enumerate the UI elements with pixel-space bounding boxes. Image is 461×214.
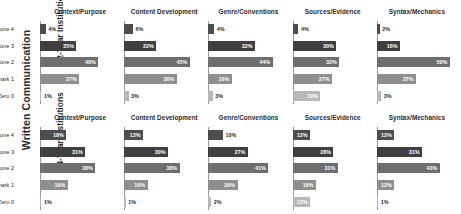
bar-0[interactable]: 6% (124, 24, 133, 34)
bar-3[interactable]: 16% (293, 180, 316, 190)
bar-value-label: 12% (381, 182, 394, 188)
bar-row: 19% (40, 177, 120, 194)
bars-container: 2%16%50%27%3% (377, 21, 457, 104)
bar-value-label: 22% (143, 43, 156, 49)
bar-row: 25% (40, 38, 120, 55)
bar-value-label: 43% (426, 165, 439, 171)
bar-value-label: 27% (403, 76, 416, 82)
bar-value-label: 3% (381, 93, 391, 99)
bar-2[interactable]: 38% (40, 163, 95, 173)
bar-0[interactable]: 4% (40, 24, 46, 34)
bars-container: 4%25%40%27%1% (40, 21, 120, 104)
bar-1[interactable]: 30% (124, 147, 168, 157)
bar-row: 50% (377, 54, 457, 71)
bar-value-label: 32% (242, 43, 255, 49)
bar-value-label: 31% (409, 149, 422, 155)
panel-title-2yr-1: Content Development (124, 8, 204, 15)
bar-3[interactable]: 19% (40, 180, 68, 190)
bar-2[interactable]: 45% (124, 57, 190, 67)
bar-3[interactable]: 36% (124, 74, 176, 84)
bars-container: 12%28%31%16%12% (293, 127, 373, 210)
bar-4[interactable]: 1% (40, 197, 41, 207)
bar-4[interactable]: 1% (124, 197, 125, 207)
bars-container: 4%32%44%16%3% (208, 21, 288, 104)
category-axis-labels-bottom: Capstone 4Milestone 3Milestone 2Benchmar… (0, 127, 16, 210)
bar-3[interactable]: 16% (208, 74, 231, 84)
bar-value-label: 1% (41, 93, 51, 99)
bar-row: 20% (208, 177, 288, 194)
bar-3[interactable]: 27% (293, 74, 332, 84)
bar-2[interactable]: 50% (377, 57, 450, 67)
bar-4[interactable]: 3% (377, 91, 381, 101)
bar-1[interactable]: 31% (40, 147, 85, 157)
bar-value-label: 12% (297, 132, 310, 138)
bar-row: 1% (377, 193, 457, 210)
bar-3[interactable]: 27% (377, 74, 416, 84)
bar-4[interactable]: 1% (40, 91, 41, 101)
bar-value-label: 2% (211, 199, 221, 205)
bar-4[interactable]: 12% (293, 197, 310, 207)
bar-row: 10% (208, 127, 288, 144)
bar-2[interactable]: 44% (208, 57, 272, 67)
bar-1[interactable]: 22% (124, 41, 156, 51)
bar-value-label: 27% (319, 76, 332, 82)
bar-value-label: 16% (134, 182, 147, 188)
bar-3[interactable]: 12% (377, 180, 394, 190)
bar-value-label: 12% (381, 132, 394, 138)
bar-1[interactable]: 32% (208, 41, 255, 51)
bar-2[interactable]: 31% (293, 163, 338, 173)
bar-4[interactable]: 2% (208, 197, 211, 207)
bar-0[interactable]: 13% (124, 130, 143, 140)
bar-0[interactable]: 10% (208, 130, 223, 140)
bar-2[interactable]: 40% (40, 57, 98, 67)
bar-row: 22% (124, 38, 204, 55)
bar-row: 3% (208, 87, 288, 104)
bar-0[interactable]: 12% (293, 130, 310, 140)
bar-0[interactable]: 2% (377, 24, 380, 34)
bar-1[interactable]: 30% (293, 41, 337, 51)
bar-row: 30% (124, 144, 204, 161)
panel-title-4yr-1: Content Development (124, 114, 204, 121)
bar-4[interactable]: 1% (377, 197, 378, 207)
bars-container: 6%22%45%36%3% (124, 21, 204, 104)
bar-value-label: 38% (166, 165, 179, 171)
panel-4yr-2: Genre/Conventions10%27%41%20%2% (208, 110, 292, 214)
bar-2[interactable]: 41% (208, 163, 268, 173)
category-label-top-1: Milestone 3 (0, 38, 16, 55)
bar-value-label: 38% (82, 165, 95, 171)
bar-row: 18% (40, 127, 120, 144)
bar-1[interactable]: 16% (377, 41, 400, 51)
category-label-bottom-1: Milestone 3 (0, 144, 16, 161)
bars-container: 10%27%41%20%2% (208, 127, 288, 210)
bar-row: 27% (208, 144, 288, 161)
bar-4[interactable]: 19% (293, 91, 321, 101)
bar-4[interactable]: 3% (208, 91, 212, 101)
bar-row: 32% (293, 54, 373, 71)
category-label-bottom-4: Zero 0 (0, 193, 16, 210)
bar-value-label: 19% (54, 182, 67, 188)
bar-3[interactable]: 16% (124, 180, 147, 190)
bar-row: 32% (208, 38, 288, 55)
bar-2[interactable]: 43% (377, 163, 440, 173)
bar-value-label: 2% (380, 26, 390, 32)
bar-2[interactable]: 38% (124, 163, 179, 173)
bar-0[interactable]: 12% (377, 130, 394, 140)
bar-value-label: 4% (214, 26, 224, 32)
bar-row: 36% (124, 71, 204, 88)
bar-2[interactable]: 32% (293, 57, 340, 67)
bar-1[interactable]: 25% (40, 41, 76, 51)
panels-top: Context/Purpose4%25%40%27%1%Content Deve… (40, 4, 461, 108)
bar-0[interactable]: 4% (208, 24, 214, 34)
bar-0[interactable]: 4% (293, 24, 299, 34)
bar-4[interactable]: 3% (124, 91, 128, 101)
plot-area-4yr-0: 18%31%38%19%1% (40, 127, 120, 210)
bar-0[interactable]: 18% (40, 130, 66, 140)
bar-3[interactable]: 20% (208, 180, 237, 190)
plot-area-2yr-2: 4%32%44%16%3% (208, 21, 288, 104)
bar-value-label: 44% (259, 59, 272, 65)
bar-1[interactable]: 31% (377, 147, 422, 157)
bar-1[interactable]: 27% (208, 147, 247, 157)
bar-1[interactable]: 28% (293, 147, 334, 157)
category-label-top-3: Benchmark 1 (0, 71, 16, 88)
bar-row: 27% (40, 71, 120, 88)
